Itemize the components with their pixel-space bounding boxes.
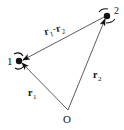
origin-label: O bbox=[63, 113, 71, 125]
particle-2-dot bbox=[104, 13, 110, 19]
particle-2-label: 2 bbox=[114, 5, 119, 16]
vector-r2-arrow bbox=[68, 19, 105, 110]
vector-r2-label-sub: 2 bbox=[98, 75, 102, 83]
vector-r2-label: r 2 bbox=[93, 69, 102, 83]
particle-1 bbox=[14, 53, 24, 69]
particle-1-dot bbox=[16, 58, 22, 64]
diagram-svg: 1 2 O r 1 r 2 r 1 - r 2 bbox=[0, 0, 124, 130]
vector-r1-label-sub: 1 bbox=[33, 93, 37, 101]
spin-arc-icon bbox=[15, 66, 24, 69]
spin-arc-icon bbox=[106, 19, 115, 23]
label-r2-sub: 2 bbox=[61, 27, 67, 36]
spin-arc-icon bbox=[99, 9, 108, 12]
particle-1-label: 1 bbox=[7, 55, 13, 67]
diagram-canvas: 1 2 O r 1 r 2 r 1 - r 2 bbox=[0, 0, 124, 130]
spin-arc-icon bbox=[14, 53, 23, 56]
vector-r1-minus-r2-arrow bbox=[23, 17, 104, 60]
vector-r1-minus-r2-label: r 1 - r 2 bbox=[43, 21, 67, 40]
vector-r1-label: r 1 bbox=[28, 87, 37, 101]
particle-2 bbox=[99, 9, 115, 23]
